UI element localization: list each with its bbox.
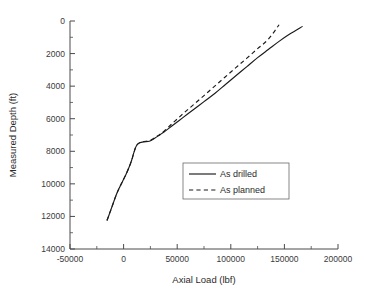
x-axis-ticks: -50000050000100000150000200000 — [57, 244, 353, 264]
axes — [70, 21, 338, 249]
x-tick-label: 200000 — [324, 254, 353, 264]
y-tick-label: 6000 — [46, 114, 65, 124]
y-tick-label: 10000 — [41, 179, 65, 189]
chart-root: -50000050000100000150000200000 020004000… — [0, 0, 371, 299]
y-tick-label: 14000 — [41, 244, 65, 254]
x-tick-label: 50000 — [165, 254, 189, 264]
y-tick-label: 8000 — [46, 146, 65, 156]
y-tick-label: 4000 — [46, 81, 65, 91]
x-tick-label: -50000 — [57, 254, 84, 264]
legend-label-as-drilled: As drilled — [220, 169, 257, 179]
x-tick-label: 150000 — [270, 254, 299, 264]
chart-figure: -50000050000100000150000200000 020004000… — [0, 0, 371, 299]
legend: As drilled As planned — [183, 163, 289, 199]
legend-label-as-planned: As planned — [220, 185, 265, 195]
chart-svg: -50000050000100000150000200000 020004000… — [0, 0, 371, 299]
x-tick-label: 0 — [121, 254, 126, 264]
y-axis-title: Measured Depth (ft) — [7, 93, 18, 177]
y-tick-label: 2000 — [46, 49, 65, 59]
y-tick-label: 0 — [60, 16, 65, 26]
x-tick-label: 100000 — [217, 254, 246, 264]
y-tick-label: 12000 — [41, 211, 65, 221]
x-axis-title: Axial Load (lbf) — [172, 274, 235, 285]
